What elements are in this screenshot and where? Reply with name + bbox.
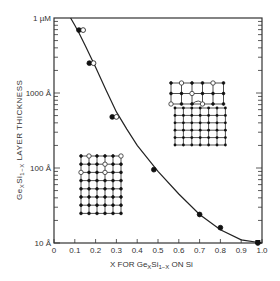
fit-curve-path <box>71 18 262 243</box>
si-atom <box>96 187 99 190</box>
si-atom <box>96 196 99 199</box>
si-atom <box>174 121 177 124</box>
si-atom <box>88 179 91 182</box>
si-atom <box>120 196 123 199</box>
open-data-point <box>91 61 96 66</box>
x-tick-label: 0.8 <box>215 246 227 255</box>
si-atom <box>88 163 91 166</box>
si-atom <box>199 129 202 132</box>
si-atom <box>182 144 185 147</box>
si-atom <box>222 103 225 106</box>
si-atom <box>216 136 219 139</box>
si-atom <box>112 196 115 199</box>
si-atom <box>199 121 202 124</box>
si-atom <box>190 144 193 147</box>
si-atom <box>170 82 173 85</box>
si-atom <box>207 136 210 139</box>
si-atom <box>120 212 123 215</box>
si-atom <box>182 136 185 139</box>
x-tick-label: 0.5 <box>152 246 164 255</box>
x-axis-ticks: 00.10.20.30.40.50.60.70.80.91.0 <box>52 239 268 255</box>
si-atom <box>207 129 210 132</box>
ge-atom <box>119 154 123 158</box>
si-atom <box>224 129 227 132</box>
si-atom <box>112 171 115 174</box>
si-atom <box>222 82 225 85</box>
si-atom <box>207 114 210 117</box>
si-atom <box>182 107 185 110</box>
x-tick-label: 0.2 <box>90 246 102 255</box>
si-atom <box>201 92 204 95</box>
si-atom <box>112 204 115 207</box>
si-atom <box>207 144 210 147</box>
si-atom <box>80 196 83 199</box>
si-atom <box>174 107 177 110</box>
si-atom <box>112 163 115 166</box>
si-atom <box>224 121 227 124</box>
si-atom <box>212 92 215 95</box>
si-atom <box>112 155 115 158</box>
si-atom <box>104 179 107 182</box>
si-atom <box>199 107 202 110</box>
si-atom <box>216 107 219 110</box>
ge-atom <box>200 102 204 106</box>
si-atom <box>212 103 215 106</box>
si-atom <box>80 155 83 158</box>
si-atom <box>224 114 227 117</box>
x-tick-label: 0.6 <box>173 246 185 255</box>
si-atom <box>174 129 177 132</box>
si-atom <box>80 212 83 215</box>
inset-strained-lattice <box>79 154 123 215</box>
si-atom <box>224 136 227 139</box>
si-atom <box>182 114 185 117</box>
si-atom <box>112 179 115 182</box>
x-tick-label: 0.1 <box>69 246 81 255</box>
open-data-point <box>114 115 119 120</box>
x-tick-label: 0.9 <box>236 246 248 255</box>
ge-atom <box>87 154 91 158</box>
ge-atom <box>211 81 215 85</box>
x-axis-title: X FOR GeXSi1−X ON Si <box>110 260 193 270</box>
x-tick-label: 1.0 <box>256 246 268 255</box>
si-atom <box>222 92 225 95</box>
si-atom <box>96 155 99 158</box>
si-atom <box>207 121 210 124</box>
x-tick-label: 0.4 <box>132 246 144 255</box>
si-atom <box>190 107 193 110</box>
plot-frame <box>54 18 262 243</box>
si-atom <box>88 212 91 215</box>
si-atom <box>80 179 83 182</box>
si-atom <box>80 204 83 207</box>
si-atom <box>88 196 91 199</box>
si-atom <box>199 114 202 117</box>
si-atom <box>201 82 204 85</box>
x-tick-label: 0.3 <box>111 246 123 255</box>
ge-atom <box>103 170 107 174</box>
si-atom <box>224 107 227 110</box>
end-data-point <box>255 240 260 244</box>
si-atom <box>182 129 185 132</box>
si-atom <box>182 121 185 124</box>
si-atom <box>80 187 83 190</box>
si-atom <box>190 136 193 139</box>
si-atom <box>174 136 177 139</box>
ge-atom <box>79 170 83 174</box>
y-tick-label: 1 µM <box>33 14 51 23</box>
si-atom <box>96 179 99 182</box>
si-atom <box>180 92 183 95</box>
si-atom <box>96 212 99 215</box>
si-atom <box>96 171 99 174</box>
si-atom <box>104 155 107 158</box>
inset-relaxed-lattice <box>169 81 227 147</box>
open-data-point <box>81 28 86 33</box>
fit-curve <box>71 18 262 243</box>
si-atom <box>216 144 219 147</box>
si-atom <box>88 171 91 174</box>
si-atom <box>199 144 202 147</box>
y-tick-label: 1000 Å <box>26 89 52 98</box>
si-atom <box>216 129 219 132</box>
si-atom <box>190 121 193 124</box>
si-atom <box>120 179 123 182</box>
x-tick-label: 0.7 <box>194 246 206 255</box>
si-atom <box>88 187 91 190</box>
